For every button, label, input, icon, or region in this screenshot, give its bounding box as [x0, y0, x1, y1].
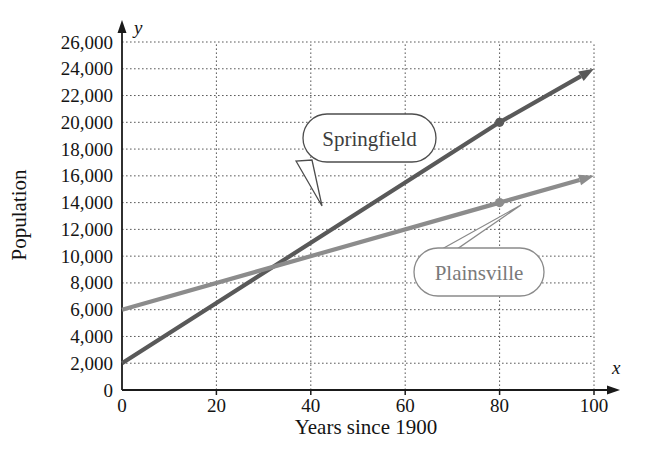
series-arrowhead [578, 175, 594, 186]
y-tick-label: 2,000 [70, 353, 113, 374]
series-springfield [122, 69, 594, 363]
x-tick-label: 100 [580, 395, 609, 416]
x-tick-label: 80 [490, 395, 509, 416]
x-tick-label: 40 [301, 395, 320, 416]
x-tick-label: 60 [396, 395, 415, 416]
callout-tail-plainsville [442, 205, 521, 249]
x-axis-title: Years since 1900 [295, 415, 438, 439]
y-tick-label: 0 [104, 380, 114, 401]
series-arrowhead [578, 69, 594, 81]
x-axis-arrowhead [607, 386, 620, 395]
y-tick-label: 26,000 [61, 32, 113, 53]
y-tick-label: 16,000 [61, 165, 113, 186]
callout-plainsville[interactable]: Plainsville [414, 205, 544, 296]
chart-page: y x 02,0004,0006,0008,00010,00012,00014,… [0, 0, 645, 449]
x-tick-label: 0 [117, 395, 127, 416]
y-axis-tick-labels: 02,0004,0006,0008,00010,00012,00014,0001… [61, 32, 113, 401]
horizontal-gridlines [122, 42, 594, 363]
y-tick-label: 20,000 [61, 112, 113, 133]
callout-label-springfield: Springfield [322, 127, 417, 151]
x-tick-label: 20 [207, 395, 226, 416]
y-tick-label: 4,000 [70, 326, 113, 347]
y-tick-label: 8,000 [70, 272, 113, 293]
y-tick-label: 6,000 [70, 299, 113, 320]
population-line-chart: y x 02,0004,0006,0008,00010,00012,00014,… [0, 0, 645, 449]
y-tick-label: 12,000 [61, 219, 113, 240]
y-axis-letter: y [132, 17, 143, 38]
y-tick-label: 14,000 [61, 192, 113, 213]
callout-label-plainsville: Plainsville [435, 261, 524, 285]
y-axis-title: Population [7, 169, 31, 261]
y-tick-label: 10,000 [61, 246, 113, 267]
callout-springfield[interactable]: Springfield [296, 114, 436, 206]
data-point-marker [495, 198, 504, 207]
data-series-layer [122, 69, 594, 363]
y-axis-arrowhead [118, 20, 127, 33]
annotation-callouts-layer: Springfield Plainsville [296, 114, 544, 296]
callout-tail-springfield [296, 160, 322, 206]
data-point-marker [495, 118, 504, 127]
vertical-gridlines [216, 42, 594, 390]
x-axis-tick-labels: 020406080100 [117, 395, 608, 416]
y-tick-label: 18,000 [61, 139, 113, 160]
y-tick-label: 22,000 [61, 85, 113, 106]
x-axis-letter: x [611, 357, 621, 378]
y-tick-label: 24,000 [61, 58, 113, 79]
